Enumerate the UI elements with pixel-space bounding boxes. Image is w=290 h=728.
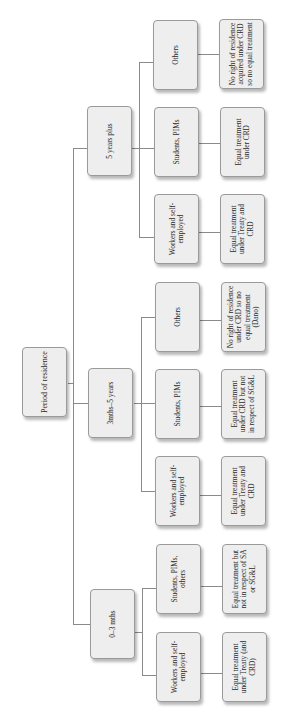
category-node-0-3mths-students: Students, PIMs, others [156,544,201,614]
connector-0-3mths-workers-outcome [201,673,222,674]
outcome-node-3mths-workers: Equal treatment under Treaty and CRD [221,456,266,526]
category-node-label: Students, PIMs [173,372,181,436]
connector-3mths-others-outcome [200,320,221,321]
branch-node-3mths-5-years: 3mths–5 years [88,368,133,438]
category-node-5yrs-others: Others [153,20,198,90]
outcome-node-5yrs-students: Equal treatment under CRD [220,107,265,177]
category-node-label: Students, PIMs [172,110,180,174]
category-node-5yrs-workers: Workers and self-employed [154,194,199,264]
outcome-node-label: Equal treatment under Treaty and CRD [230,197,255,261]
branch-node-0-3-mths: 0–3 mths [90,589,135,659]
category-node-label: Others [171,23,179,87]
category-node-3mths-workers: Workers and self-employed [155,456,200,526]
connector-0-3mths-students-outcome [201,586,222,587]
connector-spine-to-5yrs [73,148,87,149]
outcome-node-5yrs-others: No right of residence acquired under CRD… [219,19,264,89]
outcome-node-label: Equal treatment under Treaty (and CRD) [232,635,257,699]
category-node-3mths-students: Students, PIMs [155,369,200,439]
connector-5yrs-to-students [139,148,154,149]
outcome-node-0-3mths-students: Equal treatment but not in respect of SA… [222,544,267,614]
connector-0-3mths-spine [142,588,143,676]
outcome-node-label: Equal treatment under CRD but not in res… [231,372,256,436]
connector-5yrs-others-outcome [198,54,219,55]
outcome-node-0-3mths-workers: Equal treatment under Treaty (and CRD) [222,632,267,702]
root-node-period-of-residence: Period of residence [22,347,67,417]
connector-5yrs-students-outcome [199,143,220,144]
category-node-0-3mths-workers: Workers and self-employed [156,632,201,702]
branch-node-label: 0–3 mths [108,592,116,656]
category-node-label: Students, PIMs, others [170,547,187,611]
connector-5yrs-to-workers [139,237,154,238]
connector-3mths-spine [141,317,142,492]
outcome-node-label: Equal treatment but not in respect of SA… [232,547,257,611]
connector-5yrs-stub [132,148,139,149]
outcome-node-label: Equal treatment under Treaty and CRD [231,459,256,523]
connector-5yrs-workers-outcome [199,232,220,233]
branch-node-label: 3mths–5 years [106,371,114,435]
connector-3mths-to-workers [141,491,155,492]
connector-spine-to-3mths [73,403,88,404]
branch-node-label: 5 years plus [105,109,113,173]
connector-3mths-to-students [141,403,155,404]
category-node-5yrs-students: Students, PIMs [154,107,199,177]
connector-3mths-to-others [141,317,155,318]
connector-3mths-students-outcome [200,406,221,407]
category-node-label: Workers and self-employed [170,635,187,699]
connector-5yrs-spine [139,62,140,238]
outcome-node-3mths-students: Equal treatment under CRD but not in res… [221,369,266,439]
branch-node-5-years-plus: 5 years plus [87,106,132,176]
outcome-node-3mths-others: No right of residence under CRD so no eq… [221,282,266,352]
category-node-3mths-others: Others [155,282,200,352]
connector-0-3mths-stub [135,632,142,633]
outcome-node-label: No right of residence acquired under CRD… [229,22,254,86]
connector-5yrs-to-others [139,62,153,63]
outcome-node-label: Equal treatment under CRD [234,110,251,174]
category-node-label: Others [173,285,181,349]
connector-0-3mths-to-workers [142,675,156,676]
outcome-node-5yrs-workers: Equal treatment under Treaty and CRD [220,194,265,264]
outcome-node-label: No right of residence under CRD so no eq… [227,285,261,349]
connector-3mths-stub [134,403,141,404]
connector-3mths-workers-outcome [200,495,221,496]
root-node-label: Period of residence [40,350,48,414]
connector-0-3mths-to-students [142,588,156,589]
category-node-label: Workers and self-employed [168,197,185,261]
connector-main-spine [73,148,74,625]
category-node-label: Workers and self-employed [169,459,186,523]
period-of-residence-tree: Period of residence 5 years plus 3mths–5… [0,0,290,728]
connector-spine-to-0-3mths [73,624,90,625]
